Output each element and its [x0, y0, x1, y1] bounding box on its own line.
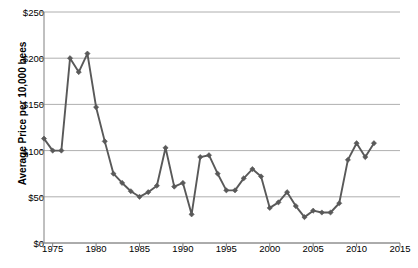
- data-point-marker: [180, 180, 185, 185]
- plot-area: [0, 0, 418, 268]
- data-point-marker: [102, 139, 107, 144]
- data-point-marker: [172, 184, 177, 189]
- data-point-marker: [93, 105, 98, 110]
- data-point-marker: [163, 145, 168, 150]
- data-series-line: [44, 54, 374, 218]
- data-point-marker: [319, 210, 324, 215]
- data-point-marker: [189, 212, 194, 217]
- data-point-marker: [59, 148, 64, 153]
- bee-price-line-chart: Average Price per 10,000 bees $0$50$100$…: [0, 0, 418, 268]
- data-point-marker: [198, 154, 203, 159]
